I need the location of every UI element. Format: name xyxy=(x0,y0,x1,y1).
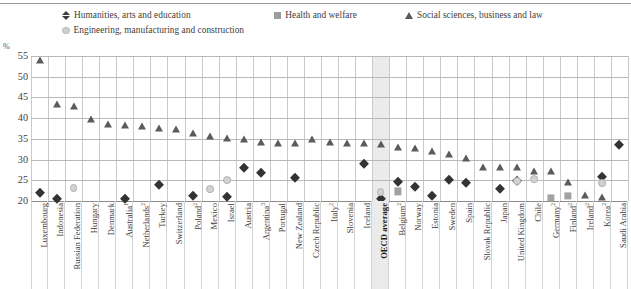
x-axis-category-cell: Germany2 xyxy=(543,201,560,289)
x-axis-category-cell: Israel xyxy=(219,201,236,289)
x-axis-category-label: Luxembourg xyxy=(40,203,49,247)
chart-container: Humanities, arts and education Health an… xyxy=(0,0,631,289)
legend-row-2: Engineering, manufacturing and construct… xyxy=(62,23,622,38)
y-axis-unit-label: % xyxy=(3,42,10,51)
data-point xyxy=(104,120,112,127)
x-axis-category-cell: Iceland xyxy=(355,201,372,289)
data-point xyxy=(479,164,487,171)
footnote-marker: 2 xyxy=(192,203,198,206)
y-axis-tick-label: 55 xyxy=(4,51,28,61)
data-point xyxy=(70,103,78,110)
gridline-horizontal xyxy=(31,180,628,181)
x-axis-category-cell: OECD average xyxy=(372,201,389,289)
data-point xyxy=(377,188,385,196)
y-axis-tick-label: 25 xyxy=(4,175,28,185)
x-axis-category-cell: Ireland2 xyxy=(577,201,594,289)
circle-marker-icon xyxy=(62,27,70,35)
x-axis-category-cell: Sweden xyxy=(440,201,457,289)
x-axis-category-cell: Slovak Republic xyxy=(474,201,491,289)
data-point xyxy=(394,188,401,195)
data-point xyxy=(411,144,419,151)
x-axis-category-cell: Belgium2 xyxy=(389,201,406,289)
gridline-horizontal xyxy=(31,118,628,119)
chart-legend: Humanities, arts and education Health an… xyxy=(62,8,622,40)
legend-label-social: Social sciences, business and law xyxy=(417,8,543,23)
x-axis-category-label: Finland2 xyxy=(568,203,577,232)
x-axis-category-cell: Korea2 xyxy=(594,201,611,289)
footnote-marker: 2 xyxy=(396,203,402,206)
y-axis-tick-label: 50 xyxy=(4,72,28,82)
x-axis-category-cell: Netherlands2 xyxy=(133,201,150,289)
x-axis-category-label: Ireland2 xyxy=(585,203,594,230)
x-axis-category-label: Germany2 xyxy=(551,203,560,238)
data-point xyxy=(428,148,436,155)
x-axis-category-cell: Poland2 xyxy=(185,201,202,289)
data-point xyxy=(377,141,385,148)
x-axis-category-cell: Luxembourg xyxy=(31,201,48,289)
data-point xyxy=(598,193,606,200)
square-marker-icon xyxy=(274,12,281,19)
legend-item-health: Health and welfare xyxy=(274,8,357,23)
x-axis-category-label: Israel xyxy=(227,203,236,222)
data-point xyxy=(581,191,589,198)
x-axis-category-label: Sweden xyxy=(448,203,457,230)
legend-item-social: Social sciences, business and law xyxy=(405,8,543,23)
legend-item-engineering: Engineering, manufacturing and construct… xyxy=(62,23,244,38)
x-axis-category-cell: Italy2 xyxy=(321,201,338,289)
footnote-marker: 3 xyxy=(260,203,266,206)
data-point xyxy=(496,163,504,170)
x-axis-category-cell: Austria xyxy=(236,201,253,289)
data-point xyxy=(36,57,44,64)
plot-area xyxy=(31,56,628,201)
data-point xyxy=(513,177,521,185)
data-point xyxy=(257,139,265,146)
gridline-horizontal xyxy=(31,77,628,78)
x-axis-category-cell: Switzerland xyxy=(167,201,184,289)
data-point xyxy=(274,140,282,147)
footnote-marker: 2 xyxy=(601,203,607,206)
x-axis-category-label: New Zealand xyxy=(295,203,304,249)
x-axis-category-cell: Hungary xyxy=(82,201,99,289)
x-axis-category-cell: Chile xyxy=(526,201,543,289)
x-axis-category-cell: Norway xyxy=(406,201,423,289)
footnote-marker: 2 xyxy=(140,203,146,206)
y-axis-tick-label: 30 xyxy=(4,155,28,165)
x-axis-category-cell: Spain xyxy=(457,201,474,289)
data-point xyxy=(206,185,214,193)
x-axis-category-cell: New Zealand xyxy=(287,201,304,289)
x-axis-category-label: Czech Republic xyxy=(312,203,321,258)
legend-row-1: Humanities, arts and education Health an… xyxy=(62,8,622,23)
x-axis-category-label: Hungary xyxy=(90,203,99,233)
data-point xyxy=(121,121,129,128)
legend-label-engineering: Engineering, manufacturing and construct… xyxy=(74,23,244,38)
diamond-marker-icon xyxy=(62,7,70,15)
x-axis-category-labels: LuxembourgIndonesiaRussian FederationHun… xyxy=(31,201,628,289)
legend-item-humanities: Humanities, arts and education xyxy=(62,8,191,23)
x-axis-category-cell: Estonia xyxy=(423,201,440,289)
legend-label-humanities: Humanities, arts and education xyxy=(74,8,191,23)
data-point xyxy=(155,125,163,132)
x-axis-category-cell: Indonesia xyxy=(48,201,65,289)
data-point xyxy=(343,140,351,147)
data-point xyxy=(223,176,231,184)
legend-label-health: Health and welfare xyxy=(285,8,357,23)
footnote-marker: 2 xyxy=(328,203,334,206)
x-axis-category-label: Saudi Arabia xyxy=(619,203,628,248)
x-axis-category-cell: Czech Republic xyxy=(304,201,321,289)
x-axis-category-label: Mexico xyxy=(210,203,219,229)
x-axis-category-cell: Australia1 xyxy=(116,201,133,289)
x-axis-category-label: Austria xyxy=(244,203,253,228)
gridline-vertical xyxy=(628,56,629,201)
y-axis-tick-label: 35 xyxy=(4,134,28,144)
x-axis-category-label: Switzerland xyxy=(175,203,184,244)
x-axis-category-label: Argentina3 xyxy=(261,203,270,240)
data-point xyxy=(547,167,555,174)
x-axis-category-cell: Finland2 xyxy=(560,201,577,289)
data-point xyxy=(445,151,453,158)
data-point xyxy=(513,164,521,171)
footnote-marker: 2 xyxy=(584,203,590,206)
y-axis-tick-label: 20 xyxy=(4,196,28,206)
data-point xyxy=(599,179,607,187)
x-axis-category-cell: Portugal xyxy=(270,201,287,289)
x-axis-category-cell: Mexico xyxy=(202,201,219,289)
